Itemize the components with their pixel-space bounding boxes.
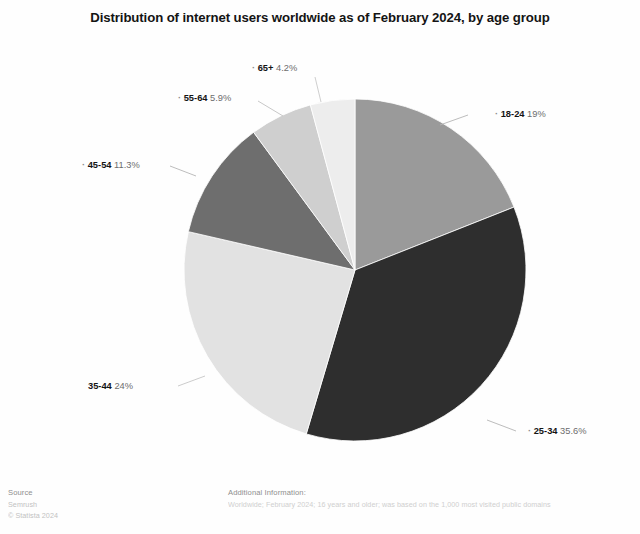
label-bullet-65-plus: · [252, 63, 255, 73]
footer-source-heading: Source [8, 487, 218, 499]
pie-label-55-64: · 55-64 5.9% [178, 94, 231, 103]
footer-source-name: Semrush [8, 499, 218, 511]
page-title: Distribution of internet users worldwide… [0, 10, 640, 27]
footer-info-detail: Worldwide; February 2024; 16 years and o… [228, 499, 632, 511]
chart-footer: Source Semrush © Statista 2024 Additiona… [0, 487, 640, 534]
label-name-55-64: 55-64 [184, 93, 208, 103]
label-bullet-55-64: · [178, 93, 181, 103]
label-name-35-44: 35-44 [88, 381, 112, 391]
label-name-45-54: 45-54 [88, 160, 112, 170]
pie-label-35-44: 35-44 24% [88, 382, 133, 391]
label-name-18-24: 18-24 [501, 109, 525, 119]
pie-chart-svg [183, 98, 527, 442]
label-value-65-plus: 4.2% [276, 63, 297, 73]
pie-label-18-24: · 18-24 19% [495, 110, 546, 119]
label-value-45-54: 11.3% [114, 160, 140, 170]
footer-info-heading: Additional Information: [228, 487, 632, 499]
pie-label-45-54: · 45-54 11.3% [82, 161, 140, 170]
pie-chart [183, 98, 527, 442]
label-value-25-34: 35.6% [560, 426, 586, 436]
label-bullet-45-54: · [82, 160, 85, 170]
footer-source-column: Source Semrush © Statista 2024 [8, 487, 218, 522]
label-value-55-64: 5.9% [210, 93, 231, 103]
pie-label-25-34: · 25-34 35.6% [528, 427, 586, 436]
label-value-35-44: 24% [114, 381, 133, 391]
chart-canvas: Distribution of internet users worldwide… [0, 0, 640, 534]
label-bullet-25-34: · [528, 426, 531, 436]
label-name-25-34: 25-34 [534, 426, 558, 436]
label-name-65-plus: 65+ [258, 63, 274, 73]
label-value-18-24: 19% [527, 109, 546, 119]
label-bullet-18-24: · [495, 109, 498, 119]
pie-label-65-plus: · 65+ 4.2% [252, 64, 297, 73]
footer-info-column: Additional Information: Worldwide; Febru… [228, 487, 632, 510]
footer-copyright: © Statista 2024 [8, 510, 218, 522]
